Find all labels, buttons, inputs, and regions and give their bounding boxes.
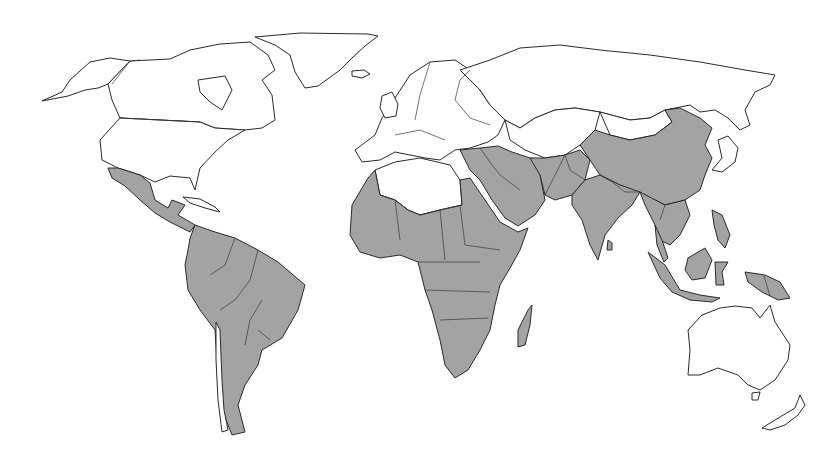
region-new-zealand (762, 395, 805, 430)
country-regions-layer (42, 33, 805, 435)
region-canada (108, 42, 275, 130)
region-japan (712, 136, 738, 172)
region-tasmania (752, 392, 760, 400)
region-iceland (352, 70, 370, 78)
region-new-guinea (745, 272, 790, 300)
region-uk-ireland (380, 92, 398, 118)
region-greenland (255, 33, 378, 88)
region-philippines (712, 210, 730, 248)
region-madagascar (518, 305, 532, 347)
world-map-svg (0, 0, 837, 461)
region-caribbean-cuba (183, 197, 220, 212)
region-australia (688, 305, 790, 390)
region-sri-lanka (607, 240, 612, 250)
region-sulawesi (715, 262, 728, 285)
region-borneo (685, 248, 712, 280)
world-map (0, 0, 837, 461)
region-south-america (185, 225, 305, 435)
